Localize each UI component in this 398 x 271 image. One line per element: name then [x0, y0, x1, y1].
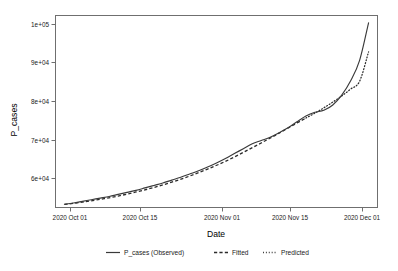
x-tick-label: 2020 Nov 15	[272, 214, 309, 221]
plot-canvas: 1e+05 9e+04 8e+04 7e+04 6e+04 2020 Oct 0…	[0, 0, 398, 271]
y-tick-label: 1e+05	[31, 21, 49, 28]
x-tick-label: 2020 Oct 15	[123, 214, 158, 221]
x-axis-title: Date	[207, 229, 225, 239]
legend-label-observed: P_cases (Observed)	[124, 249, 184, 257]
y-axis-tick-labels: 1e+05 9e+04 8e+04 7e+04 6e+04	[31, 21, 49, 182]
y-axis-ticks	[52, 25, 56, 179]
y-tick-label: 9e+04	[31, 59, 49, 66]
y-axis-title: P_cases	[9, 104, 19, 137]
plot-frame	[56, 16, 378, 208]
legend-label-predicted: Predicted	[281, 249, 309, 256]
x-axis-ticks	[71, 208, 363, 212]
y-tick-label: 6e+04	[31, 175, 49, 182]
x-tick-label: 2020 Dec 01	[344, 214, 381, 221]
x-tick-label: 2020 Oct 01	[53, 214, 88, 221]
series-line-observed	[64, 23, 368, 204]
y-tick-label: 8e+04	[31, 98, 49, 105]
y-tick-label: 7e+04	[31, 137, 49, 144]
x-axis-tick-labels: 2020 Oct 01 2020 Oct 15 2020 Nov 01 2020…	[53, 214, 381, 221]
chart-legend: P_cases (Observed) Fitted Predicted	[106, 249, 309, 257]
legend-label-fitted: Fitted	[232, 249, 249, 256]
series-line-fitted	[64, 118, 306, 204]
x-tick-label: 2020 Nov 01	[204, 214, 241, 221]
chart-figure: 1e+05 9e+04 8e+04 7e+04 6e+04 2020 Oct 0…	[0, 0, 398, 271]
